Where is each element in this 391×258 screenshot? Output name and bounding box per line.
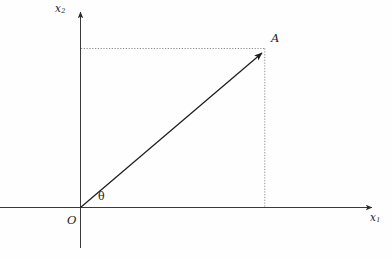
x-axis-label: x1 [370,212,380,224]
vector-diagram-svg [0,0,391,258]
vector-oa [81,53,263,208]
point-a-label: A [271,33,279,45]
figure-canvas: x2 x1 A O θ [0,0,391,258]
y-axis-label: x2 [55,3,65,15]
angle-theta-label: θ [98,191,105,202]
origin-label: O [67,215,76,227]
